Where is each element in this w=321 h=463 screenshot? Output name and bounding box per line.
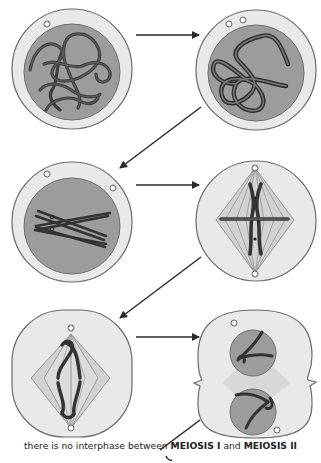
caption-prefix: there is no interphase between: [24, 440, 171, 451]
arrow-diagonal-1: [120, 107, 201, 168]
centriole-icon: [226, 21, 232, 27]
cell-6-telophase: [194, 310, 316, 438]
centriole-icon: [44, 171, 50, 177]
centriole-icon: [252, 271, 258, 277]
centriole-icon: [231, 320, 237, 326]
centriole-icon: [44, 21, 50, 27]
caption-middle: and: [221, 440, 244, 451]
caption-term-meiosis-2: MEIOSIS II: [244, 440, 297, 451]
cell-3-late-prophase: [12, 162, 132, 282]
cell-5-anaphase: [12, 310, 132, 437]
cell-2-mid-prophase: [196, 10, 316, 130]
centriole-icon: [110, 185, 116, 191]
cell-1-early-prophase: [12, 9, 132, 129]
meiosis-diagram: [0, 0, 321, 463]
centriole-icon: [68, 425, 74, 431]
centriole-icon: [252, 165, 258, 171]
caption-term-meiosis-1: MEIOSIS I: [171, 440, 221, 451]
cell-4-metaphase: [196, 161, 316, 281]
centriole-icon: [274, 427, 280, 433]
caption: there is no interphase between MEIOSIS I…: [0, 440, 321, 451]
centriole-icon: [68, 325, 74, 331]
arrow-diagonal-2: [120, 257, 201, 318]
arrow-diagonal-3-head: [166, 456, 172, 460]
centriole-icon: [240, 17, 246, 23]
